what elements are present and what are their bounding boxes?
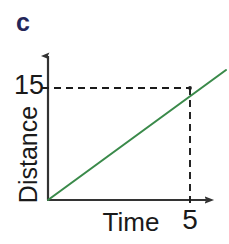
figure-panel-c: c 15 5 Distance Time — [0, 0, 229, 244]
x-axis-title: Time — [98, 209, 164, 235]
y-axis-title: Distance — [16, 100, 41, 210]
data-line-distance-vs-time — [48, 70, 226, 200]
y-axis-tick-label-15: 15 — [6, 72, 44, 99]
x-axis-tick-label-5: 5 — [176, 206, 204, 234]
data-point-marker-5-15 — [188, 86, 192, 90]
